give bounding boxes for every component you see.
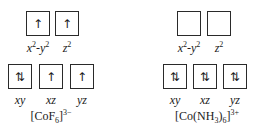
complex-title-cof6: [CoF6]3− (1, 108, 101, 125)
orbital-box-z2: ↑ (55, 11, 79, 36)
orbital-label-yz: yz (62, 93, 102, 108)
orbital-box-xy: ⇅ (163, 64, 187, 89)
orbital-box-x2y2: ↑ (26, 11, 50, 36)
orbital-box-yz: ⇅ (223, 64, 247, 89)
orbital-box-yz: ↑ (70, 64, 94, 89)
orbital-label-yz: yz (215, 93, 255, 108)
orbital-box-xz: ⇅ (193, 64, 217, 89)
orbital-box-x2y2 (177, 11, 201, 36)
orbital-label-z2: z2 (199, 40, 239, 56)
orbital-box-z2 (207, 11, 231, 36)
complex-title-co-nh3-6: [Co(NH3)6]3+ (157, 108, 257, 125)
orbital-label-z2: z2 (47, 40, 87, 56)
orbital-box-xz: ↑ (39, 64, 63, 89)
orbital-box-xy: ⇅ (8, 64, 32, 89)
